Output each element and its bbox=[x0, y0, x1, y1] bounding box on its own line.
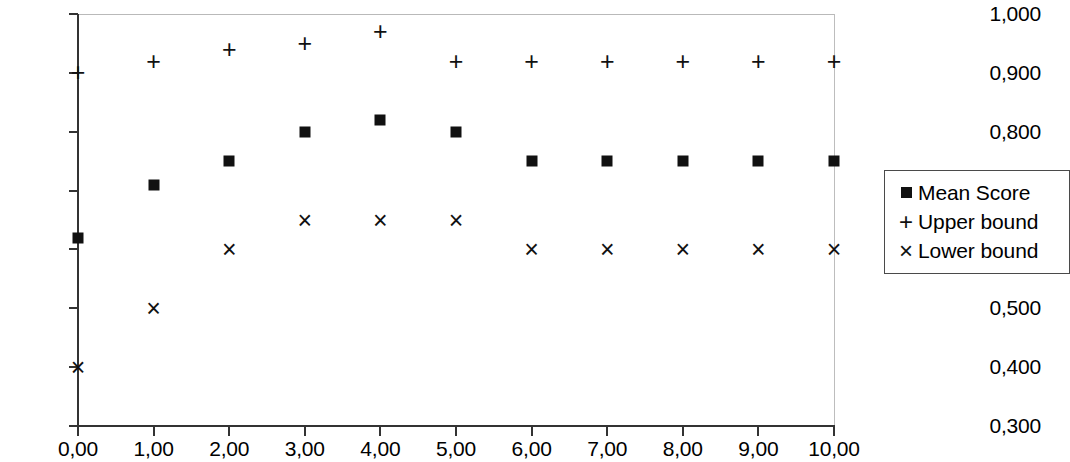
data-point-plus: + bbox=[519, 48, 545, 74]
x-axis-tick-label: 5,00 bbox=[436, 438, 476, 459]
legend-entry-label: Lower bound bbox=[918, 240, 1038, 261]
x-axis-tick bbox=[531, 427, 533, 436]
data-point-filled-square bbox=[73, 232, 84, 243]
x-axis-tick bbox=[228, 427, 230, 436]
data-point-plus: + bbox=[216, 36, 242, 62]
y-axis-tick-label: 0,300 bbox=[969, 415, 1041, 436]
chart-legend: Mean Score+Upper bound×Lower bound bbox=[884, 170, 1070, 274]
y-axis-tick-label: 1,000 bbox=[969, 3, 1041, 24]
x-axis-tick bbox=[153, 427, 155, 436]
x-axis-tick-label: 6,00 bbox=[512, 438, 552, 459]
data-point-plus: + bbox=[594, 48, 620, 74]
data-point-plus: + bbox=[65, 60, 91, 86]
y-axis-tick-label: 0,400 bbox=[969, 356, 1041, 377]
x-axis-tick bbox=[682, 427, 684, 436]
x-axis-tick-label: 0,00 bbox=[58, 438, 98, 459]
data-point-filled-square bbox=[451, 126, 462, 137]
data-point-cross: × bbox=[367, 207, 393, 233]
legend-entry-label: Mean Score bbox=[918, 182, 1030, 203]
data-point-cross: × bbox=[594, 236, 620, 262]
data-point-filled-square bbox=[677, 156, 688, 167]
data-point-plus: + bbox=[670, 48, 696, 74]
data-point-plus: + bbox=[292, 30, 318, 56]
data-point-filled-square bbox=[602, 156, 613, 167]
x-axis-tick-label: 9,00 bbox=[738, 438, 778, 459]
x-axis-tick-label: 8,00 bbox=[663, 438, 703, 459]
data-point-cross: × bbox=[443, 207, 469, 233]
data-point-cross: × bbox=[821, 236, 847, 262]
data-point-filled-square bbox=[148, 179, 159, 190]
data-point-plus: + bbox=[141, 48, 167, 74]
y-axis-tick-label: 0,500 bbox=[969, 297, 1041, 318]
data-point-cross: × bbox=[292, 207, 318, 233]
x-axis-tick bbox=[606, 427, 608, 436]
x-axis-tick-label: 4,00 bbox=[360, 438, 400, 459]
data-point-filled-square bbox=[829, 156, 840, 167]
y-axis-tick-label: 0,800 bbox=[969, 121, 1041, 142]
data-point-cross: × bbox=[216, 236, 242, 262]
x-axis-tick-label: 3,00 bbox=[285, 438, 325, 459]
x-axis-tick-label: 10,00 bbox=[808, 438, 860, 459]
x-axis-tick bbox=[757, 427, 759, 436]
x-axis-tick-label: 7,00 bbox=[587, 438, 627, 459]
data-point-cross: × bbox=[65, 354, 91, 380]
legend-entry[interactable]: +Upper bound bbox=[894, 207, 1063, 236]
y-axis-tick bbox=[69, 190, 78, 192]
data-point-cross: × bbox=[141, 295, 167, 321]
y-axis-tick-label: 0,900 bbox=[969, 62, 1041, 83]
data-point-plus: + bbox=[443, 48, 469, 74]
x-axis-tick bbox=[304, 427, 306, 436]
x-axis-tick bbox=[77, 427, 79, 436]
data-point-plus: + bbox=[745, 48, 771, 74]
data-point-filled-square bbox=[526, 156, 537, 167]
data-point-plus: + bbox=[821, 48, 847, 74]
y-axis-tick bbox=[69, 307, 78, 309]
legend-entry[interactable]: ×Lower bound bbox=[894, 236, 1063, 265]
plot-border-top bbox=[78, 14, 835, 15]
x-axis-tick bbox=[833, 427, 835, 436]
x-axis-tick bbox=[455, 427, 457, 436]
legend-entry-label: Upper bound bbox=[918, 211, 1038, 232]
data-point-cross: × bbox=[519, 236, 545, 262]
data-point-filled-square bbox=[375, 114, 386, 125]
x-axis-tick-label: 2,00 bbox=[209, 438, 249, 459]
legend-entry[interactable]: Mean Score bbox=[894, 178, 1063, 207]
x-axis-tick-label: 1,00 bbox=[134, 438, 174, 459]
legend-marker-square-icon bbox=[894, 187, 918, 198]
legend-marker-plus-icon: + bbox=[894, 210, 918, 234]
plot-border-right bbox=[834, 14, 835, 427]
data-point-plus: + bbox=[367, 19, 393, 45]
y-axis-tick bbox=[69, 131, 78, 133]
data-point-filled-square bbox=[224, 156, 235, 167]
legend-marker-cross-icon: × bbox=[894, 239, 918, 263]
data-point-filled-square bbox=[299, 126, 310, 137]
y-axis-tick bbox=[69, 13, 78, 15]
y-axis-tick bbox=[69, 248, 78, 250]
data-point-cross: × bbox=[670, 236, 696, 262]
data-point-filled-square bbox=[753, 156, 764, 167]
x-axis-tick bbox=[379, 427, 381, 436]
data-point-cross: × bbox=[745, 236, 771, 262]
